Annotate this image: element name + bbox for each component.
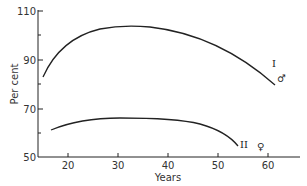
- y-ticks: [38, 11, 43, 133]
- curve-i-label: I: [272, 58, 276, 69]
- female-symbol: ♀: [257, 141, 264, 152]
- y-tick-70: 70: [23, 104, 36, 115]
- y-axis-label: Per cent: [9, 63, 20, 104]
- x-tick-20: 20: [62, 160, 75, 171]
- y-tick-90: 90: [23, 55, 36, 66]
- line-chart: 110 90 70 50 20 30 40 50 60 Years Per ce…: [0, 0, 307, 186]
- x-tick-40: 40: [162, 160, 175, 171]
- y-tick-110: 110: [17, 6, 36, 17]
- x-ticks: [68, 153, 268, 157]
- x-tick-60: 60: [262, 160, 275, 171]
- x-tick-50: 50: [212, 160, 225, 171]
- curve-i-male: [43, 26, 275, 85]
- curve-ii-label: II: [240, 139, 248, 150]
- y-tick-50: 50: [23, 152, 36, 163]
- male-symbol: ♂: [277, 73, 286, 84]
- x-axis-label: Years: [154, 172, 181, 183]
- curve-ii-female: [51, 118, 238, 146]
- x-tick-30: 30: [112, 160, 125, 171]
